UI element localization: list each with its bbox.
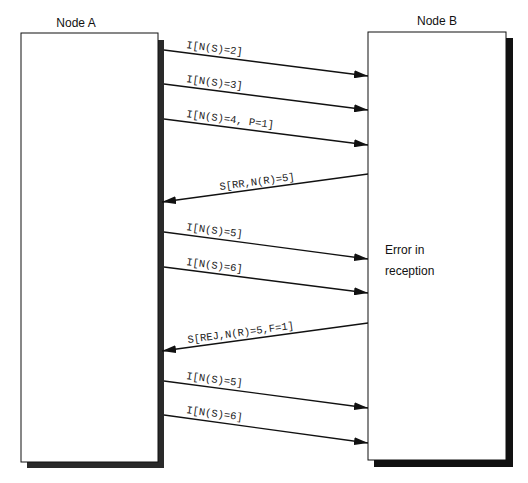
node-b: Node B Error in reception	[368, 14, 513, 467]
node-a-box	[21, 33, 158, 462]
message-label: I[N(S)=5]	[186, 221, 244, 240]
error-note-line-2: reception	[385, 264, 434, 278]
node-b-label: Node B	[417, 14, 457, 28]
message-label: I[N(S)=5]	[186, 370, 244, 389]
message-arrow	[164, 381, 368, 408]
message-label: I[N(S)=6]	[186, 404, 244, 423]
node-a-label: Node A	[56, 16, 95, 30]
message-arrow	[164, 415, 368, 443]
error-note-line-1: Error in	[385, 243, 424, 257]
sequence-diagram: Node A Node B Error in reception I[N(S)=…	[0, 0, 528, 483]
messages: I[N(S)=2] I[N(S)=3] I[N(S)=4, P=1] S[RR,…	[162, 39, 368, 443]
message-label: S[REJ,N(R)=5,F=1]	[187, 320, 295, 346]
message-label: I[N(S)=3]	[186, 73, 244, 92]
node-a: Node A	[21, 16, 164, 468]
message-label: I[N(S)=2]	[186, 39, 244, 58]
message-arrow	[164, 267, 368, 293]
message-arrow	[164, 232, 368, 259]
message-arrow	[164, 84, 368, 110]
message-arrow	[164, 50, 368, 76]
message-label: I[N(S)=6]	[186, 256, 244, 275]
